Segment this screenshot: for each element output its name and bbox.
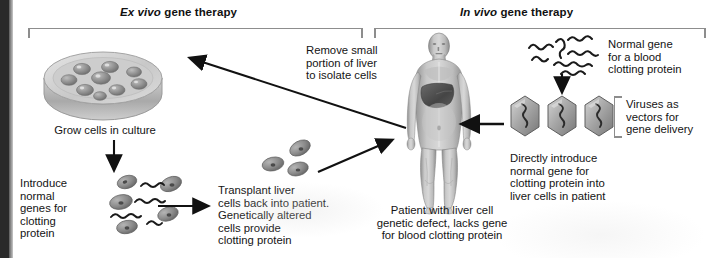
altered-cells-cluster-icon bbox=[258, 136, 328, 181]
dna-strands-icon bbox=[524, 32, 604, 82]
petri-dish-icon bbox=[38, 36, 168, 126]
panel-title-ex-vivo: Ex vivo gene therapy bbox=[120, 6, 237, 18]
caption-introduce-genes: Introduce normal genes for clotting prot… bbox=[20, 177, 110, 240]
page-edge-band bbox=[0, 0, 9, 258]
caption-remove-portion: Remove small portion of liver to isolate… bbox=[306, 44, 406, 82]
arrow-cells-to-patient bbox=[318, 140, 392, 172]
caption-directly-introduce: Directly introduce normal gene for clott… bbox=[510, 152, 645, 202]
bracket-in-vivo bbox=[374, 28, 706, 29]
page-edge-gradient bbox=[9, 0, 13, 258]
caption-normal-gene: Normal gene for a blood clotting protein bbox=[608, 38, 718, 76]
cell-cluster-with-dna-icon bbox=[105, 170, 205, 240]
virus-capsids-icon bbox=[508, 94, 616, 142]
panel-title-in-vivo-italic: In vivo bbox=[460, 6, 497, 18]
caption-patient: Patient with liver cell genetic defect, … bbox=[352, 204, 532, 242]
panel-title-ex-vivo-italic: Ex vivo bbox=[120, 6, 161, 18]
panel-title-in-vivo-rest: gene therapy bbox=[497, 6, 573, 18]
bracket-ex-vivo bbox=[28, 28, 363, 29]
caption-grow-cells: Grow cells in culture bbox=[30, 124, 180, 137]
caption-transplant: Transplant liver cells back into patient… bbox=[218, 184, 353, 247]
human-body-figure bbox=[400, 32, 478, 217]
panel-title-in-vivo: In vivo gene therapy bbox=[460, 6, 573, 18]
caption-viruses-vectors: Viruses as vectors for gene delivery bbox=[626, 98, 721, 136]
panel-title-ex-vivo-rest: gene therapy bbox=[161, 6, 237, 18]
gene-therapy-diagram: Ex vivo gene therapy In vivo gene therap… bbox=[0, 0, 728, 258]
